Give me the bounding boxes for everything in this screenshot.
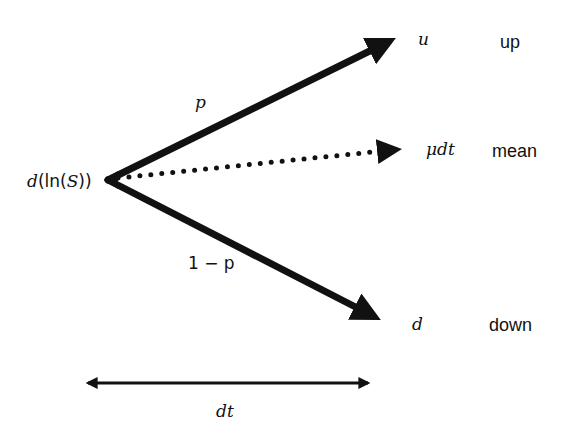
origin-node bbox=[104, 171, 118, 189]
origin-label: d(ln(S)) bbox=[27, 171, 92, 191]
down-probability-label: 1 − p bbox=[188, 253, 235, 273]
time-step-label: dt bbox=[216, 401, 234, 421]
up-value-label: u bbox=[418, 29, 429, 49]
mean-description: mean bbox=[492, 141, 537, 161]
down-branch-arrow bbox=[108, 180, 373, 316]
mean-value-label: μdt bbox=[426, 139, 455, 159]
up-branch-arrow bbox=[108, 42, 388, 180]
up-description: up bbox=[500, 32, 520, 52]
up-probability-label: p bbox=[195, 92, 206, 112]
binomial-diagram: d(ln(S)) p 1 − p u μdt d up mean down dt bbox=[0, 0, 568, 435]
down-value-label: d bbox=[412, 314, 423, 334]
down-description: down bbox=[489, 315, 532, 335]
